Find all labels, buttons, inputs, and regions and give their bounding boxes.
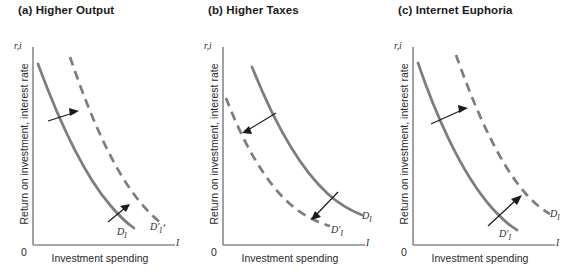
panel-b-lower-shift-arrow: [311, 192, 338, 220]
panel-a-solid-curve-label: DI: [117, 226, 127, 240]
panel-b: (b) Higher Taxes Return on investment, i…: [190, 0, 380, 273]
panel-b-y-axis-tip: r,i: [204, 41, 212, 51]
panel-b-dashed-curve: [226, 98, 330, 226]
panel-b-x-axis-label: Investment spending: [220, 252, 360, 264]
panel-c-dashed-curve: [456, 55, 550, 214]
panel-b-title: (b) Higher Taxes: [208, 4, 299, 16]
panel-c-x-axis-label: Investment spending: [410, 252, 550, 264]
panel-a-origin-label: 0: [21, 246, 27, 258]
panel-b-dashed-curve-label: D′I: [331, 224, 343, 238]
panel-c-solid-curve-label: D′I: [499, 228, 511, 242]
panel-c-title: (c) Internet Euphoria: [398, 4, 513, 16]
panel-a: (a) Higher Output Return on investment, …: [0, 0, 190, 273]
panel-c-y-axis-tip: r,i: [394, 41, 402, 51]
panel-b-upper-shift-arrow: [242, 113, 276, 134]
panel-b-solid-curve-label: DI: [362, 210, 372, 224]
panel-b-origin-label: 0: [211, 246, 217, 258]
panel-a-dashed-curve-label: D′I: [150, 221, 162, 235]
panel-c-y-axis-label: Return on investment, interest rate: [398, 59, 410, 229]
panel-c: (c) Internet Euphoria Return on investme…: [380, 0, 570, 273]
panel-c-dashed-curve-label: DI: [550, 208, 560, 222]
panel-a-x-axis-label: Investment spending: [30, 252, 170, 264]
panel-a-title: (a) Higher Output: [18, 4, 114, 16]
investment-demand-shift-figure: (a) Higher Output Return on investment, …: [0, 0, 570, 273]
panel-c-x-axis-tip: I: [556, 238, 559, 248]
panel-a-solid-curve: [38, 64, 134, 228]
panel-b-y-axis-label: Return on investment, interest rate: [208, 59, 220, 229]
panel-a-dashed-curve: [70, 57, 165, 226]
panel-b-solid-curve: [252, 67, 362, 215]
panel-a-y-axis-label: Return on investment, interest rate: [18, 59, 30, 229]
panel-a-x-axis-tip: I: [176, 238, 179, 248]
panel-a-upper-shift-arrow: [48, 108, 79, 121]
panel-b-x-axis-tip: I: [366, 238, 369, 248]
panel-c-origin-label: 0: [401, 246, 407, 258]
panel-a-y-axis-tip: r,i: [14, 41, 22, 51]
